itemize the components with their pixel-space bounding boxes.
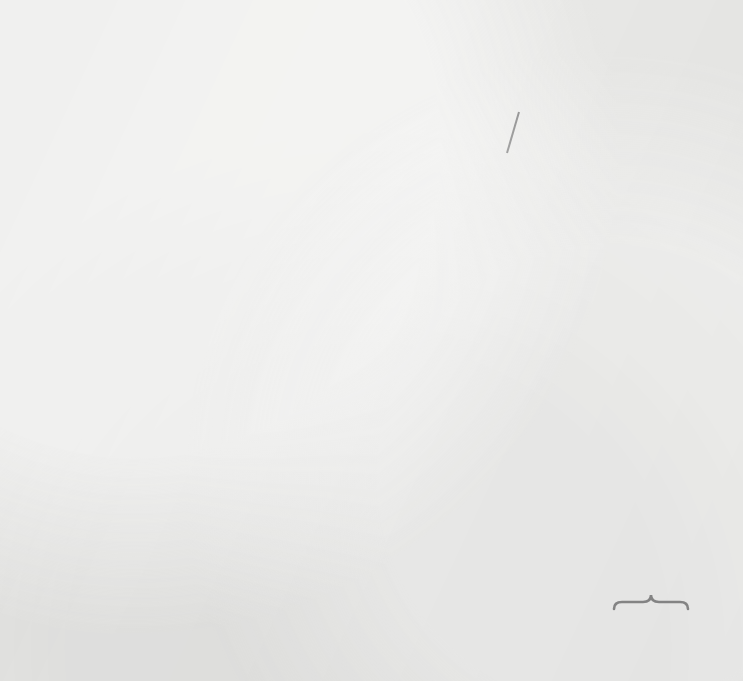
chart-figure	[0, 0, 743, 681]
chart-canvas	[0, 0, 743, 681]
prognosen-brace	[614, 595, 688, 609]
maastricht-leader-line	[507, 112, 519, 153]
